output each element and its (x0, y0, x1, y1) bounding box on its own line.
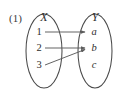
mapping-diagram-figure: (1) X Y 1 2 3 a b c (0, 0, 124, 96)
figure-number-label: (1) (9, 12, 22, 25)
element-y-a: a (91, 26, 96, 37)
element-x-2: 2 (36, 42, 41, 53)
element-y-c: c (92, 59, 97, 70)
element-x-1: 1 (36, 26, 41, 37)
diagram-canvas: (1) X Y 1 2 3 a b c (0, 0, 124, 96)
set-y-label: Y (92, 10, 100, 24)
set-x-oval (26, 14, 62, 88)
element-y-b: b (91, 42, 96, 53)
element-x-3: 3 (36, 59, 41, 70)
set-x-label: X (39, 10, 48, 24)
